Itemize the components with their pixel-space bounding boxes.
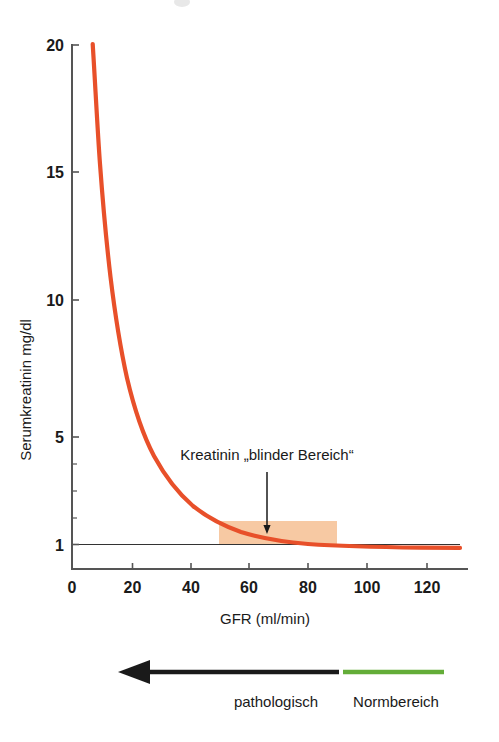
legend-label-normbereich: Normbereich — [353, 693, 439, 710]
x-tick-label-120: 120 — [414, 579, 441, 596]
serum-creatinine-curve — [93, 44, 460, 548]
y-tick-label-20: 20 — [46, 37, 64, 54]
x-tick-label-40: 40 — [182, 579, 200, 596]
x-tick-label-60: 60 — [240, 579, 258, 596]
x-tick-label-100: 100 — [354, 579, 381, 596]
creatinine-gfr-chart: 20 15 10 5 1 Serumkreatinin mg/dl 0 20 4… — [0, 0, 499, 742]
x-tick-label-0: 0 — [68, 579, 77, 596]
pathologisch-arrow-head-icon — [118, 660, 150, 684]
y-tick-label-5: 5 — [55, 429, 64, 446]
x-tick-label-80: 80 — [299, 579, 317, 596]
y-axis-title: Serumkreatinin mg/dl — [17, 319, 34, 461]
blind-range-annotation-label: Kreatinin „blinder Bereich“ — [180, 446, 353, 463]
legend-label-pathologisch: pathologisch — [234, 693, 318, 710]
chart-figure: 20 15 10 5 1 Serumkreatinin mg/dl 0 20 4… — [0, 0, 499, 742]
y-tick-label-15: 15 — [46, 164, 64, 181]
page-top-fragment — [174, 0, 190, 7]
y-tick-label-10: 10 — [46, 292, 64, 309]
x-tick-label-20: 20 — [124, 579, 142, 596]
y-tick-label-1: 1 — [55, 537, 64, 554]
x-axis-title: GFR (ml/min) — [220, 610, 310, 627]
